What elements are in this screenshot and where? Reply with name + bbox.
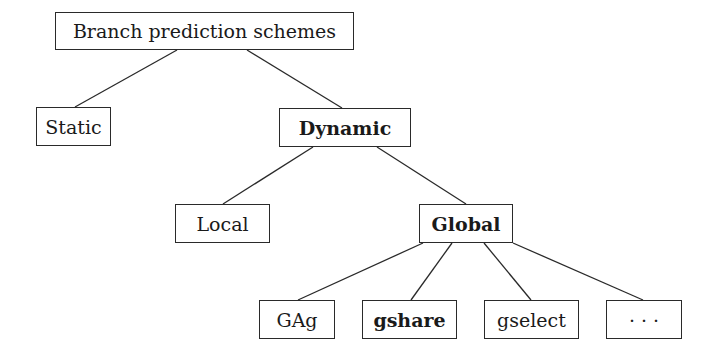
edge-global-gshare — [411, 243, 452, 300]
node-branch-prediction-schemes: Branch prediction schemes — [55, 12, 354, 50]
node-local: Local — [175, 204, 270, 243]
edge-dynamic-local — [223, 147, 313, 204]
node-gselect: gselect — [484, 300, 579, 339]
edge-dynamic-global — [377, 147, 466, 204]
node-gag: GAg — [259, 300, 335, 339]
node-more-ellipsis: · · · — [606, 300, 682, 339]
node-static: Static — [36, 107, 111, 146]
edge-global-gag — [298, 243, 423, 300]
node-gshare: gshare — [362, 300, 457, 339]
edge-global-more — [513, 243, 643, 300]
node-dynamic: Dynamic — [279, 108, 411, 147]
node-global: Global — [419, 204, 513, 243]
edge-global-gselect — [484, 243, 531, 300]
edge-root-static — [75, 50, 177, 107]
edge-root-dynamic — [247, 50, 342, 108]
